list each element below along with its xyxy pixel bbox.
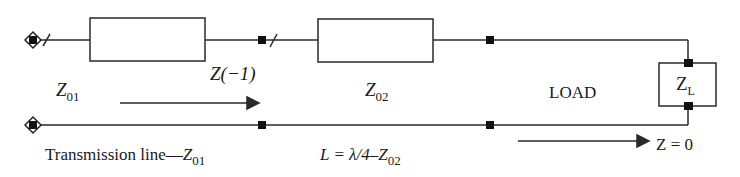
label-z02: Z02	[365, 80, 389, 103]
label-load: LOAD	[549, 84, 596, 101]
node-top-junction-1	[258, 36, 266, 44]
label-z-minus-1: Z(−1)	[210, 64, 256, 83]
node-bottom-junction-1	[258, 121, 266, 129]
label-transmission-line-z01: Transmission line—Z01	[45, 146, 205, 167]
label-zl: ZL	[676, 74, 695, 97]
port-terminal-bottom-icon	[25, 117, 41, 133]
node-load-top	[684, 59, 693, 67]
transmission-line-diagram: Z01 Z(−1) Z02 LOAD ZL Transmission line—…	[0, 0, 740, 177]
label-z01: Z01	[56, 80, 80, 103]
node-top-junction-2	[486, 36, 494, 44]
label-z-equals-0: Z = 0	[656, 136, 693, 153]
port-terminal-top-icon	[25, 32, 41, 48]
arrowhead-icon	[247, 97, 259, 109]
impedance-box-z01	[90, 18, 205, 61]
impedance-box-z02	[318, 19, 433, 62]
node-load-bottom	[684, 102, 693, 110]
node-bottom-junction-2	[486, 121, 494, 129]
arrowhead-icon	[637, 135, 649, 147]
label-quarter-wave-z02: L = λ/4–Z02	[320, 146, 401, 167]
